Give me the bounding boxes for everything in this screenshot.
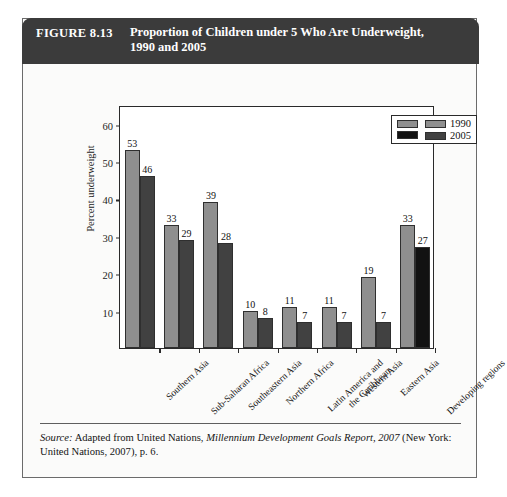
y-tick-label: 60 xyxy=(103,120,114,131)
figure-number: FIGURE 8.13 xyxy=(36,25,113,41)
bar-value-label: 33 xyxy=(167,213,177,224)
bar-2005[interactable]: 29 xyxy=(179,240,194,348)
y-tick-60: 60 xyxy=(103,120,121,131)
x-tick-mark xyxy=(278,348,279,353)
legend-item-2005: 2005 xyxy=(425,131,471,140)
bar-1990[interactable]: 11 xyxy=(322,307,337,348)
bar-group: 108 xyxy=(238,311,277,348)
bar-group: 3327 xyxy=(396,225,435,348)
bar-value-label: 11 xyxy=(324,295,334,306)
bar-group: 3928 xyxy=(199,202,238,348)
bar-1990[interactable]: 33 xyxy=(164,225,179,348)
x-tick-mark xyxy=(238,348,239,353)
source-label: Source: xyxy=(40,432,73,443)
bar-1990[interactable]: 33 xyxy=(400,225,415,348)
legend-label-2005: 2005 xyxy=(450,131,471,140)
y-tick-mark xyxy=(116,125,120,126)
source-divider xyxy=(40,423,461,424)
chart-legend: 1990 2005 xyxy=(391,115,477,144)
y-tick-label: 30 xyxy=(103,232,114,243)
chart-area: Percent underweight 102030405060 5346332… xyxy=(23,65,478,433)
bar-group: 5346 xyxy=(120,150,159,348)
bar-1990[interactable]: 53 xyxy=(125,150,140,348)
bar-rect[interactable] xyxy=(282,307,297,348)
bar-value-label: 28 xyxy=(221,231,231,242)
bar-rect[interactable] xyxy=(400,225,415,348)
bar-2005[interactable]: 27 xyxy=(415,247,430,348)
bar-2005[interactable]: 8 xyxy=(258,318,273,348)
bar-group: 197 xyxy=(356,277,395,348)
bar-value-label: 39 xyxy=(206,190,216,201)
bar-group: 117 xyxy=(278,307,317,348)
y-tick-label: 50 xyxy=(103,158,114,169)
figure-container: FIGURE 8.13 Proportion of Children under… xyxy=(22,18,477,478)
legend-swatch-developing-2005 xyxy=(397,131,418,139)
x-axis-label-line: Eastern Asia xyxy=(398,357,441,398)
bar-2005[interactable]: 7 xyxy=(376,322,391,348)
x-axis-label-line: Developing regions xyxy=(445,357,507,416)
bar-value-label: 11 xyxy=(285,295,295,306)
bar-rect[interactable] xyxy=(337,322,352,348)
y-tick-50: 50 xyxy=(103,158,121,169)
bar-rect[interactable] xyxy=(376,322,391,348)
bar-value-label: 7 xyxy=(302,310,307,321)
y-tick-20: 20 xyxy=(103,270,121,281)
bar-rect[interactable] xyxy=(125,150,140,348)
legend-extra-swatch-column xyxy=(397,120,418,139)
x-tick-mark xyxy=(435,348,436,353)
source-publication: Millennium Development Goals Report, 200… xyxy=(206,432,399,443)
bar-value-label: 7 xyxy=(342,310,347,321)
bar-value-label: 33 xyxy=(403,213,413,224)
bar-value-label: 8 xyxy=(263,306,268,317)
bar-2005[interactable]: 28 xyxy=(218,243,233,348)
bar-rect[interactable] xyxy=(322,307,337,348)
bar-value-label: 53 xyxy=(127,138,137,149)
legend-item-1990: 1990 xyxy=(425,119,471,128)
figure-title: Proportion of Children under 5 Who Are U… xyxy=(130,25,424,55)
bar-value-label: 29 xyxy=(182,228,192,239)
x-axis-label-line: Sub-Saharan Africa xyxy=(208,357,271,416)
legend-entries-column: 1990 2005 xyxy=(425,119,471,140)
x-axis-label: Sub-Saharan Africa xyxy=(208,357,271,416)
legend-swatch-1990 xyxy=(425,120,446,128)
x-tick-mark xyxy=(396,348,397,353)
bar-1990[interactable]: 19 xyxy=(361,277,376,348)
bar-group: 3329 xyxy=(159,225,198,348)
bar-rect[interactable] xyxy=(203,202,218,348)
bar-1990[interactable]: 11 xyxy=(282,307,297,348)
bar-2005[interactable]: 7 xyxy=(337,322,352,348)
x-axis-label: Southern Asia xyxy=(163,357,210,402)
x-tick-mark xyxy=(159,348,160,353)
bar-value-label: 46 xyxy=(142,164,152,175)
x-tick-mark xyxy=(356,348,357,353)
y-axis-label: Percent underweight xyxy=(85,99,96,279)
bar-2005[interactable]: 46 xyxy=(140,176,155,348)
bar-value-label: 19 xyxy=(363,265,373,276)
bar-rect[interactable] xyxy=(164,225,179,348)
bar-rect[interactable] xyxy=(179,240,194,348)
bar-rect[interactable] xyxy=(361,277,376,348)
x-axis-label-line: Southern Asia xyxy=(163,357,210,402)
source-text-before: Adapted from United Nations, xyxy=(73,432,207,443)
figure-header: FIGURE 8.13 Proportion of Children under… xyxy=(22,18,479,64)
bar-rect[interactable] xyxy=(415,247,430,348)
y-tick-label: 10 xyxy=(103,307,114,318)
bar-2005[interactable]: 7 xyxy=(297,322,312,348)
y-tick-10: 10 xyxy=(103,307,121,318)
bar-value-label: 7 xyxy=(381,310,386,321)
plot-area: 102030405060 534633293928108117117197332… xyxy=(119,106,434,349)
bar-1990[interactable]: 39 xyxy=(203,202,218,348)
bar-value-label: 10 xyxy=(245,299,255,310)
bar-group: 117 xyxy=(317,307,356,348)
y-tick-label: 40 xyxy=(103,195,114,206)
bar-1990[interactable]: 10 xyxy=(243,311,258,348)
bar-rect[interactable] xyxy=(297,322,312,348)
bar-rect[interactable] xyxy=(218,243,233,348)
x-axis-label: Developing regions xyxy=(445,357,507,416)
x-axis-label: Latin America andthe Caribbean xyxy=(325,357,392,422)
bar-rect[interactable] xyxy=(243,311,258,348)
figure-title-line-1: Proportion of Children under 5 Who Are U… xyxy=(130,25,424,40)
bar-rect[interactable] xyxy=(140,176,155,348)
x-axis-label: Eastern Asia xyxy=(398,357,441,398)
bar-rect[interactable] xyxy=(258,318,273,348)
